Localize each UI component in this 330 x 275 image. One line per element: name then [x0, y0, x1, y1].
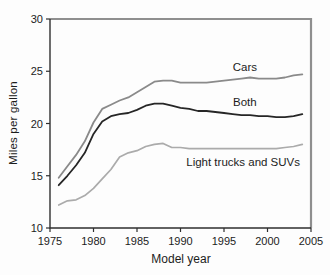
plot-frame-top-right — [50, 19, 311, 228]
x-tick-label: 1980 — [81, 235, 105, 247]
x-axis-title: Model year — [151, 252, 210, 266]
x-tick-label: 2000 — [255, 235, 279, 247]
x-tick-label: 1990 — [168, 235, 192, 247]
y-tick-label: 20 — [31, 118, 43, 130]
x-tick-label: 1995 — [212, 235, 236, 247]
x-tick-label: 1975 — [38, 235, 62, 247]
y-tick-label: 15 — [31, 170, 43, 182]
fuel-economy-figure: 10152025301975198019851990199520002005Ca… — [0, 0, 330, 275]
series-label-cars: Cars — [233, 61, 258, 73]
y-tick-label: 10 — [31, 222, 43, 234]
series-label-both: Both — [233, 96, 257, 108]
x-tick-label: 1985 — [125, 235, 149, 247]
series-line-both — [59, 104, 303, 186]
plot-axes-left-bottom — [50, 19, 311, 228]
y-axis-title: Miles per gallon — [7, 81, 19, 165]
y-tick-label: 30 — [31, 13, 43, 25]
fuel-economy-line-chart: 10152025301975198019851990199520002005Ca… — [0, 0, 330, 275]
y-tick-label: 25 — [31, 65, 43, 77]
series-line-light-trucks-and-suvs — [59, 143, 303, 205]
x-tick-label: 2005 — [299, 235, 323, 247]
series-label-light-trucks-and-suvs: Light trucks and SUVs — [186, 156, 300, 168]
